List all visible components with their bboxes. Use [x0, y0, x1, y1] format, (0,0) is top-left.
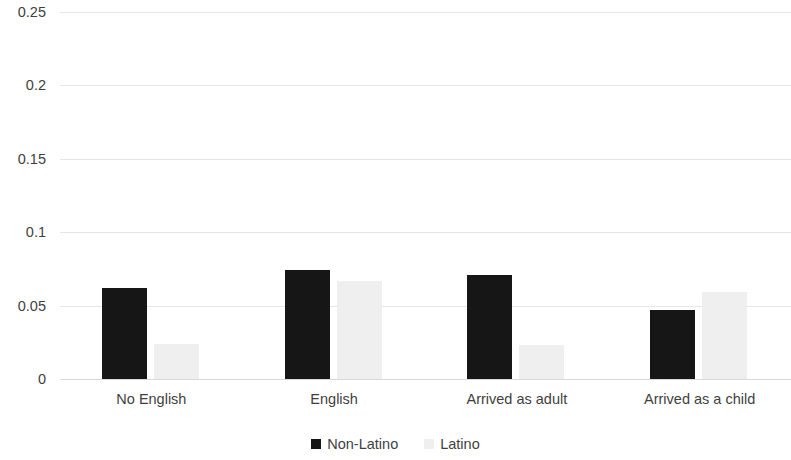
legend-label: Non-Latino [327, 437, 398, 452]
x-axis-tick-label: Arrived as adult [426, 392, 609, 407]
gridline [60, 159, 791, 160]
y-axis-tick-label: 0 [0, 372, 46, 387]
gridline [60, 306, 791, 307]
plot-area [60, 12, 791, 379]
y-axis-tick-label: 0.1 [0, 225, 46, 240]
bar-chart: 00.050.10.150.20.25 No EnglishEnglishArr… [0, 0, 791, 460]
legend-swatch-icon [424, 439, 434, 449]
gridline [60, 85, 791, 86]
gridline [60, 379, 791, 380]
gridline [60, 12, 791, 13]
bar-non-latino-arrived-as-adult [467, 275, 512, 379]
y-axis-tick-label: 0.2 [0, 78, 46, 93]
x-axis-tick-label: No English [60, 392, 243, 407]
legend-swatch-icon [311, 439, 321, 449]
bar-non-latino-no-english [102, 288, 147, 379]
bar-latino-english [337, 281, 382, 379]
chart-legend: Non-LatinoLatino [0, 437, 791, 452]
bar-non-latino-arrived-as-a-child [650, 310, 695, 379]
gridline [60, 232, 791, 233]
legend-label: Latino [440, 437, 480, 452]
bar-latino-arrived-as-a-child [702, 292, 747, 379]
y-axis-tick-label: 0.25 [0, 5, 46, 20]
legend-item-non-latino[interactable]: Non-Latino [311, 437, 398, 452]
y-axis-tick-label: 0.15 [0, 152, 46, 167]
bar-latino-arrived-as-adult [519, 345, 564, 379]
bar-latino-no-english [154, 344, 199, 379]
bar-non-latino-english [285, 270, 330, 379]
x-axis-tick-label: English [243, 392, 426, 407]
y-axis-tick-label: 0.05 [0, 298, 46, 313]
legend-item-latino[interactable]: Latino [424, 437, 480, 452]
x-axis-tick-label: Arrived as a child [608, 392, 791, 407]
